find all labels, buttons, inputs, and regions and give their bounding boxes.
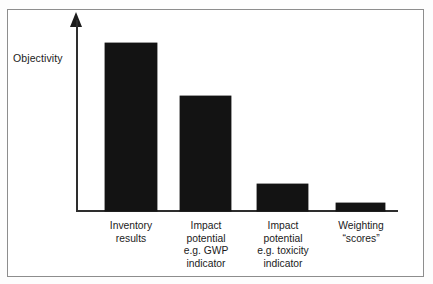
figure-root: Objectivity Inventory results Impact pot… <box>0 0 433 284</box>
bar-label-weighting-scores: Weighting “scores” <box>315 220 407 245</box>
bar-impact-potential-gwp <box>180 96 231 211</box>
bar-weighting-scores <box>336 203 385 211</box>
y-axis-line <box>76 20 78 212</box>
y-axis-title: Objectivity <box>13 52 63 64</box>
plot-area: Objectivity Inventory results Impact pot… <box>0 0 433 284</box>
bar-inventory-results <box>105 43 157 211</box>
bar-impact-potential-toxicity <box>257 184 308 211</box>
